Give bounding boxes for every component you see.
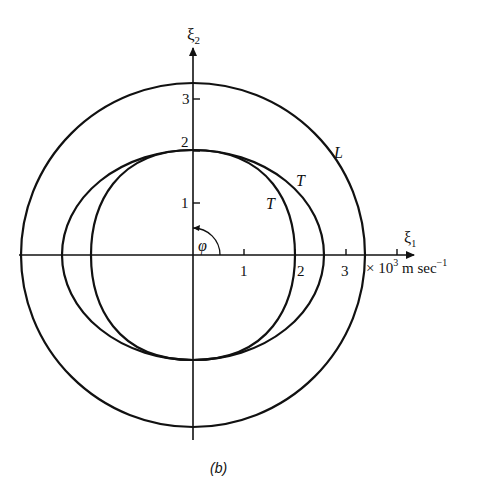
curve-label-T-inner: T	[266, 195, 276, 212]
y-tick-label-3: 3	[182, 91, 190, 107]
curve-label-T-outer: T	[296, 172, 306, 189]
x-tick-label-1: 1	[240, 263, 248, 279]
angle-phi-arrowhead	[193, 225, 200, 231]
x-tick-label-3: 3	[341, 263, 349, 279]
curve-label-L: L	[333, 144, 343, 161]
x-axis-unit-label: × 103 m sec−1	[366, 257, 447, 276]
y-axis-label: ξ2	[187, 25, 200, 46]
figure-caption: (b)	[210, 460, 227, 476]
x-axis-label: ξ1	[404, 229, 416, 249]
y-ticks	[193, 99, 200, 203]
x-tick-label-2: 2	[297, 263, 305, 279]
y-tick-label-2: 2	[181, 134, 189, 150]
slowness-surface-diagram: 1 2 3 1 2 3 ξ2 ξ1 × 103 m sec−1 φ L T T …	[0, 0, 493, 485]
angle-phi-label: φ	[198, 237, 207, 255]
x-ticks	[244, 249, 397, 255]
y-tick-label-1: 1	[181, 195, 189, 211]
